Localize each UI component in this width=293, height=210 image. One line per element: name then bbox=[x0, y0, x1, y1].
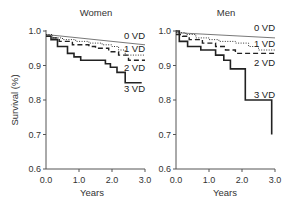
y-tick-label: 0.7 bbox=[28, 130, 41, 140]
series-label-2vd: 2 VD bbox=[254, 57, 275, 68]
x-tick-label: 3.0 bbox=[269, 175, 282, 185]
x-tick-label: 2.0 bbox=[236, 175, 249, 185]
y-tick-label: 1.0 bbox=[158, 26, 171, 36]
survival-figure: Women 1.0 0.9 0.8 0.7 0.6 0.0 1.0 2.0 3.… bbox=[0, 0, 293, 210]
series-label-3vd: 3 VD bbox=[124, 83, 145, 94]
series-label-1vd: 1 VD bbox=[124, 43, 145, 54]
panel-men: Men 1.0 0.9 0.8 0.7 0.6 0.0 1.0 2.0 3.0 … bbox=[158, 7, 281, 198]
x-tick-label: 0.0 bbox=[40, 175, 53, 185]
series-label-2vd: 2 VD bbox=[124, 62, 145, 73]
curves-women bbox=[46, 35, 145, 83]
x-tick-label: 2.0 bbox=[106, 175, 119, 185]
x-tick-label: 0.0 bbox=[170, 175, 183, 185]
x-axis-label: Years bbox=[80, 187, 104, 198]
y-tick-label: 0.6 bbox=[158, 164, 171, 174]
y-tick-label: 0.8 bbox=[28, 95, 41, 105]
y-tick-label: 1.0 bbox=[28, 26, 41, 36]
x-tick-label: 1.0 bbox=[73, 175, 86, 185]
x-tick-label: 3.0 bbox=[139, 175, 152, 185]
y-tick-label: 0.9 bbox=[158, 61, 171, 71]
panel-women: Women 1.0 0.9 0.8 0.7 0.6 0.0 1.0 2.0 3.… bbox=[9, 7, 151, 198]
series-label-0vd: 0 VD bbox=[254, 22, 275, 33]
panel-title-men: Men bbox=[217, 7, 235, 18]
series-label-1vd: 1 VD bbox=[254, 38, 275, 49]
panel-title-women: Women bbox=[80, 7, 113, 18]
y-tick-label: 0.6 bbox=[28, 164, 41, 174]
y-tick-label: 0.7 bbox=[158, 130, 171, 140]
x-tick-label: 1.0 bbox=[203, 175, 216, 185]
y-axis-label: Survival (%) bbox=[9, 74, 20, 125]
series-label-3vd: 3 VD bbox=[254, 89, 275, 100]
y-tick-label: 0.9 bbox=[28, 61, 41, 71]
y-tick-label: 0.8 bbox=[158, 95, 171, 105]
series-label-0vd: 0 VD bbox=[124, 30, 145, 41]
x-axis-label: Years bbox=[213, 187, 237, 198]
